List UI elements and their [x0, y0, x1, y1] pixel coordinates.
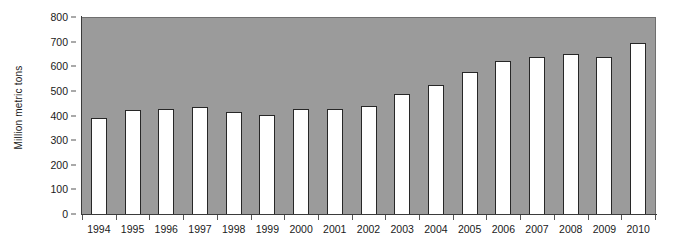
bar-2000 [293, 109, 309, 215]
x-axis-tick-marks [82, 215, 655, 221]
x-axis-tick-label: 2009 [593, 223, 616, 235]
bar-2007 [529, 57, 545, 215]
bar-1996 [158, 109, 174, 215]
bar-2009 [596, 57, 612, 215]
x-axis-tick-mark [116, 215, 117, 220]
y-axis-tick-label: 0 [62, 208, 68, 220]
y-axis-tick-mark [71, 164, 76, 165]
y-axis-tick-label: 500 [50, 85, 68, 97]
bar-2003 [394, 94, 410, 215]
x-axis-tick-label: 2010 [626, 223, 649, 235]
bar-2005 [462, 72, 478, 215]
bar-2001 [327, 109, 343, 215]
y-axis-title: Million metric tons [8, 0, 30, 214]
y-axis-tick-label: 400 [50, 110, 68, 122]
x-axis-tick-label: 2008 [559, 223, 582, 235]
x-axis-tick-mark [284, 215, 285, 220]
y-axis-tick-labels: 0100200300400500600700800 [32, 0, 76, 250]
bar-2006 [495, 61, 511, 215]
bar-2002 [361, 106, 377, 215]
y-axis-tick-mark [71, 66, 76, 67]
bar-1995 [125, 110, 141, 215]
y-axis-tick-label: 200 [50, 159, 68, 171]
bar-1997 [192, 107, 208, 215]
x-axis-tick-labels: 1994199519961997199819992000200120022003… [82, 223, 655, 243]
bar-2010 [630, 43, 646, 215]
x-axis-tick-mark [318, 215, 319, 220]
x-axis-tick-label: 2005 [458, 223, 481, 235]
x-axis-tick-mark [520, 215, 521, 220]
x-axis-tick-mark [453, 215, 454, 220]
y-axis-tick-mark [71, 90, 76, 91]
x-axis-tick-label: 1996 [155, 223, 178, 235]
x-axis-tick-mark [251, 215, 252, 220]
x-axis-tick-label: 2003 [391, 223, 414, 235]
plot-area [82, 17, 656, 215]
x-axis-tick-mark [419, 215, 420, 220]
x-axis-tick-mark [149, 215, 150, 220]
x-axis-tick-label: 2006 [492, 223, 515, 235]
x-axis-tick-mark [655, 215, 656, 220]
x-axis-tick-mark [352, 215, 353, 220]
y-axis-tick-mark [71, 115, 76, 116]
x-axis-tick-label: 2002 [357, 223, 380, 235]
y-axis-tick-label: 600 [50, 60, 68, 72]
bar-2008 [563, 54, 579, 215]
x-axis-tick-mark [217, 215, 218, 220]
bar-1994 [91, 118, 107, 215]
x-axis-tick-mark [82, 215, 83, 220]
x-axis-tick-mark [486, 215, 487, 220]
x-axis-tick-mark [588, 215, 589, 220]
y-axis-tick-mark [71, 17, 76, 18]
x-axis-tick-label: 1999 [256, 223, 279, 235]
x-axis-tick-label: 2007 [525, 223, 548, 235]
y-axis-tick-label: 700 [50, 36, 68, 48]
bar-1998 [226, 112, 242, 215]
bar-chart: Million metric tons 01002003004005006007… [0, 0, 676, 250]
y-axis-title-label: Million metric tons [14, 65, 25, 149]
x-axis-tick-label: 1998 [222, 223, 245, 235]
x-axis-tick-mark [554, 215, 555, 220]
y-axis-tick-label: 100 [50, 183, 68, 195]
y-axis-tick-label: 300 [50, 134, 68, 146]
y-axis-tick-mark [71, 140, 76, 141]
x-axis-tick-label: 2004 [424, 223, 447, 235]
x-axis-tick-label: 1997 [188, 223, 211, 235]
bar-2004 [428, 85, 444, 216]
x-axis-tick-label: 1995 [121, 223, 144, 235]
y-axis-tick-mark [71, 214, 76, 215]
x-axis-tick-label: 1994 [87, 223, 110, 235]
y-axis-tick-label: 800 [50, 11, 68, 23]
x-axis-tick-mark [385, 215, 386, 220]
y-axis-tick-mark [71, 41, 76, 42]
x-axis-tick-mark [183, 215, 184, 220]
x-axis-tick-label: 2000 [289, 223, 312, 235]
x-axis-tick-label: 2001 [323, 223, 346, 235]
y-axis-tick-mark [71, 189, 76, 190]
x-axis-tick-mark [621, 215, 622, 220]
bar-1999 [259, 115, 275, 215]
